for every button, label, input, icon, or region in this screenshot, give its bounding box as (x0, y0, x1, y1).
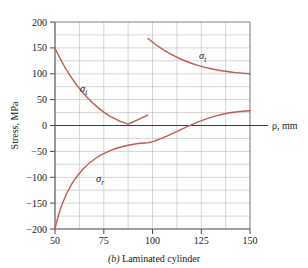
y-tick-label: −50 (31, 146, 47, 157)
caption-text: Laminated cylinder (120, 253, 201, 264)
x-axis-ticks (55, 229, 250, 234)
y-axis-tick-labels: 200 150 100 50 0 −50 −100 −150 −200 (26, 17, 47, 235)
y-tick-label: 200 (32, 17, 47, 28)
y-tick-label: 100 (32, 68, 47, 79)
y-tick-label: 0 (42, 120, 47, 131)
x-tick-label: 50 (50, 235, 60, 246)
x-tick-label: 125 (194, 235, 209, 246)
x-tick-label: 100 (145, 235, 160, 246)
x-tick-label: 150 (243, 235, 258, 246)
figure-caption: (b) Laminated cylinder (108, 253, 201, 265)
x-axis-title: ρ, mm (272, 120, 298, 131)
x-tick-label: 75 (99, 235, 109, 246)
stress-distribution-chart: 200 150 100 50 0 −50 −100 −150 −200 50 7… (0, 0, 308, 268)
caption-prefix: (b) (108, 253, 120, 265)
x-axis-tick-labels: 50 75 100 125 150 (50, 235, 258, 246)
y-tick-label: −150 (26, 198, 47, 209)
y-tick-label: 50 (37, 94, 47, 105)
y-tick-label: −100 (26, 172, 47, 183)
figure-container: 200 150 100 50 0 −50 −100 −150 −200 50 7… (0, 0, 308, 268)
y-tick-label: −200 (26, 224, 47, 235)
y-axis-title: Stress, MPa (9, 101, 20, 149)
y-tick-label: 150 (32, 42, 47, 53)
